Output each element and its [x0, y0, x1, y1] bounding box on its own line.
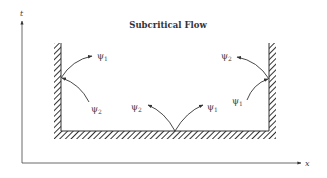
diagram-title: Subcritical Flow	[129, 20, 207, 30]
axes: t x	[20, 9, 310, 168]
label-psi2-left: ψ2	[91, 104, 102, 115]
label-psi2-right: ψ2	[221, 51, 232, 62]
bottom-left-arrow	[148, 105, 175, 131]
left-outgoing-arrow	[61, 56, 92, 78]
bottom-characteristics: ψ2 ψ1	[131, 102, 218, 131]
x-axis-label: x	[305, 159, 310, 168]
t-axis-label: t	[20, 9, 24, 18]
channel-inner-edge	[61, 43, 269, 131]
label-psi1-right: ψ1	[232, 96, 243, 107]
right-outgoing-arrow	[237, 57, 269, 79]
left-wall-characteristics: ψ1 ψ2	[61, 51, 108, 115]
right-wall-characteristics: ψ2 ψ1	[221, 51, 269, 107]
right-incoming-arrow	[247, 79, 268, 100]
bottom-floor-hatch	[54, 131, 276, 139]
left-incoming-arrow	[62, 78, 89, 102]
label-psi1-bottom: ψ1	[207, 102, 218, 113]
label-psi2-bottom: ψ2	[131, 102, 142, 113]
bottom-right-arrow	[175, 105, 203, 131]
left-wall-hatch	[54, 43, 61, 139]
right-wall-hatch	[269, 43, 276, 139]
label-psi1-left: ψ1	[97, 51, 108, 62]
subcritical-flow-diagram: t x Subcritical Flow ψ1 ψ2 ψ2 ψ1 ψ2 ψ1	[0, 0, 327, 178]
